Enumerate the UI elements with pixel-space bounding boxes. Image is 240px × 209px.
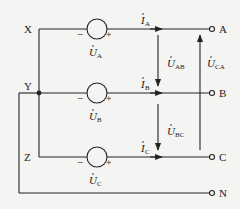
terminal-n-label: N	[219, 187, 227, 199]
source-b-label: U B	[89, 109, 102, 124]
terminal-c-label: C	[219, 151, 226, 163]
node-y-label: Y	[24, 80, 32, 92]
source-a-icon	[87, 19, 107, 39]
source-c-plus: +	[106, 157, 112, 168]
source-a-minus: −	[77, 28, 83, 40]
source-c-label: U C	[89, 173, 102, 188]
voltage-ca-label: U CA	[207, 56, 225, 71]
svg-text:A: A	[97, 52, 102, 60]
terminal-n-icon	[210, 191, 215, 196]
svg-text:BC: BC	[175, 131, 185, 139]
source-b-icon	[87, 83, 107, 103]
voltage-ab-label: U AB	[167, 56, 185, 71]
three-phase-circuit-diagram: X Y Z A B C N − + − + − + U A U B U C I …	[0, 0, 240, 209]
node-x-label: X	[24, 23, 32, 35]
source-c-minus: −	[77, 156, 83, 168]
source-b-plus: +	[106, 93, 112, 104]
svg-text:A: A	[145, 20, 150, 28]
terminal-a-label: A	[219, 23, 227, 35]
svg-text:B: B	[97, 116, 102, 124]
source-a-label: U A	[89, 45, 102, 60]
svg-text:B: B	[145, 84, 150, 92]
svg-text:AB: AB	[175, 63, 185, 71]
source-b-minus: −	[77, 92, 83, 104]
svg-text:CA: CA	[215, 63, 225, 71]
source-a-plus: +	[106, 29, 112, 40]
terminal-a-icon	[210, 27, 215, 32]
voltage-bc-label: U BC	[167, 124, 185, 139]
svg-text:C: C	[97, 180, 102, 188]
current-a-label: I A	[140, 13, 150, 28]
svg-text:C: C	[145, 148, 150, 156]
current-c-label: I C	[140, 141, 150, 156]
current-b-label: I B	[140, 77, 150, 92]
node-z-label: Z	[24, 151, 31, 163]
junction-y-icon	[37, 91, 42, 96]
terminal-c-icon	[210, 155, 215, 160]
terminal-b-icon	[210, 91, 215, 96]
circuit-svg: X Y Z A B C N − + − + − + U A U B U C I …	[0, 0, 240, 209]
terminal-b-label: B	[219, 87, 226, 99]
source-c-icon	[87, 147, 107, 167]
